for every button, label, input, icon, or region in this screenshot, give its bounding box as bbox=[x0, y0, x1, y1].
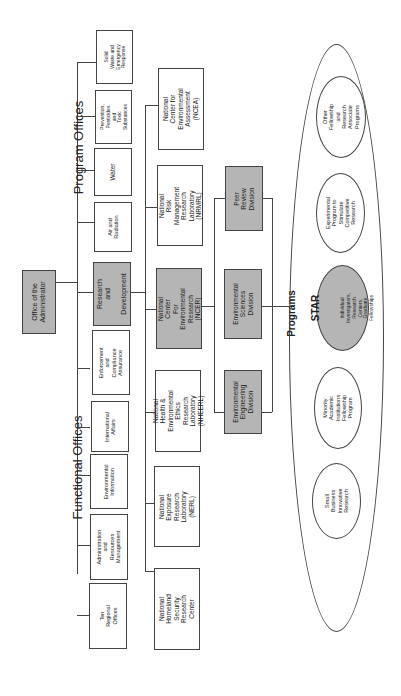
program-star: STAR Individual Investigators, Research … bbox=[316, 265, 369, 351]
office-environmental-information: Environmental Information bbox=[90, 454, 128, 509]
lab-label: National Homeland Security Research Cent… bbox=[158, 594, 195, 624]
office-label: Enforcement and Compliance Assurance bbox=[98, 347, 123, 378]
program-label: Individual Investigators, Research Cente… bbox=[340, 293, 375, 323]
office-administration: Administration and Resources Management bbox=[90, 514, 128, 580]
connector bbox=[77, 368, 90, 369]
program-label: Minority Academic Institutions Fellowshi… bbox=[322, 395, 354, 421]
office-international-affairs: International Affairs bbox=[91, 401, 129, 452]
office-solid-waste: Solid Waste and Emergency Response bbox=[96, 30, 133, 84]
divisions-spine-left bbox=[214, 198, 215, 412]
division-label: Environmental Sciences Division bbox=[232, 283, 254, 325]
office-prevention-pesticides: Prevention, Pesticides and Toxic Substan… bbox=[95, 90, 132, 144]
lab-label: National Risk Management Research Labora… bbox=[158, 187, 203, 225]
division-label: Peer Review Division bbox=[233, 187, 255, 210]
office-label: Water bbox=[109, 163, 116, 180]
office-label: Administration and Resources Management bbox=[96, 530, 121, 565]
connector bbox=[56, 282, 77, 283]
office-air-radiation: Air and Radiation bbox=[94, 202, 132, 252]
office-enforcement: Enforcement and Compliance Assurance bbox=[92, 330, 130, 395]
connector bbox=[77, 545, 90, 546]
office-label: Air and Radiation bbox=[107, 215, 120, 238]
functional-offices-title: Functional Offices bbox=[70, 416, 85, 520]
office-ten-regional: Ten Regional Offices bbox=[89, 583, 127, 649]
connector bbox=[77, 427, 90, 428]
office-label: International Affairs bbox=[104, 411, 117, 441]
program-other-fellowship: Other Fellowship and Research Associate … bbox=[316, 76, 366, 158]
office-label: Ten Regional Offices bbox=[99, 605, 118, 627]
lab-ncer: National Center For Environmental Resear… bbox=[156, 268, 202, 349]
office-of-administrator-box: Office of the Administrator bbox=[22, 270, 56, 334]
office-water: Water bbox=[94, 148, 132, 196]
division-environmental-sciences: Environmental Sciences Division bbox=[224, 269, 262, 339]
connector bbox=[77, 116, 95, 117]
office-label: Prevention, Pesticides and Toxic Substan… bbox=[99, 104, 128, 130]
connector bbox=[131, 292, 145, 293]
office-label: Research and Development bbox=[96, 273, 128, 314]
lab-label: National Health & Environmental Ethics R… bbox=[152, 390, 204, 432]
connector bbox=[77, 62, 96, 63]
connector bbox=[77, 292, 93, 293]
connector bbox=[145, 105, 159, 106]
division-label: Environmental Engineering Division bbox=[232, 381, 254, 423]
connector bbox=[77, 170, 94, 171]
lab-label: National Exposure Research Laboratory (N… bbox=[158, 491, 195, 522]
divisions-spine-right bbox=[272, 198, 273, 412]
lab-label: National Center for Environmental Assess… bbox=[162, 88, 199, 130]
division-environmental-engineering: Environmental Engineering Division bbox=[224, 370, 262, 434]
program-minority-academic: Minority Academic Institutions Fellowshi… bbox=[314, 367, 362, 449]
office-label: Solid Waste and Emergency Response bbox=[103, 44, 126, 69]
office-research-development: Research and Development bbox=[93, 262, 131, 326]
program-label: Small Business Innovative Research bbox=[324, 488, 349, 513]
lab-nerl: National Exposure Research Laboratory (N… bbox=[154, 466, 200, 547]
connector bbox=[77, 222, 94, 223]
program-star-content: STAR Individual Investigators, Research … bbox=[292, 293, 393, 323]
program-star-title: STAR bbox=[310, 293, 322, 323]
lab-nhsrc: National Homeland Security Research Cent… bbox=[154, 568, 200, 650]
labs-spine bbox=[145, 105, 146, 572]
program-sbir: Small Business Innovative Research bbox=[312, 463, 361, 539]
program-epscor: Experimental Program to Stimulate Compet… bbox=[316, 173, 365, 253]
program-offices-title: Program Offices bbox=[71, 101, 86, 195]
lab-ncea: National Center for Environmental Assess… bbox=[158, 68, 204, 150]
lab-nrmrl: National Risk Management Research Labora… bbox=[157, 165, 203, 246]
lab-label: National Center For Environmental Resear… bbox=[157, 288, 202, 330]
program-label: Experimental Program to Stimulate Compet… bbox=[325, 197, 357, 229]
division-peer-review: Peer Review Division bbox=[225, 166, 263, 231]
lab-nheerl: National Health & Environmental Ethics R… bbox=[155, 370, 201, 452]
connector bbox=[77, 475, 90, 476]
office-of-administrator-label: Office of the Administrator bbox=[31, 281, 47, 322]
office-label: Environmental Information bbox=[103, 464, 116, 499]
program-label: Other Fellowship and Research Associate … bbox=[322, 104, 360, 130]
